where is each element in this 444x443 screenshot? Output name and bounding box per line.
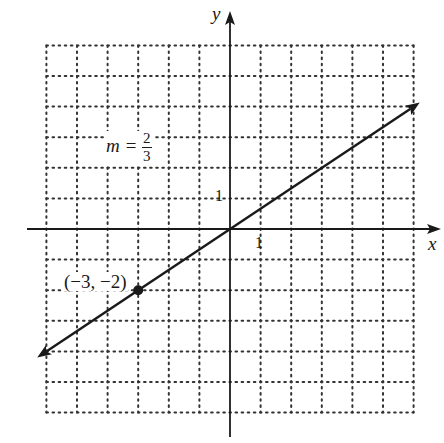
line-arrow-lower-left-icon xyxy=(37,345,52,357)
slope-numerator: 2 xyxy=(142,131,152,148)
slope-annotation: m = 23 xyxy=(104,131,154,164)
point-label: (−3, −2) xyxy=(63,272,128,291)
line-arrow-upper-right-icon xyxy=(405,103,420,115)
y-tick-label-1: 1 xyxy=(215,188,223,204)
y-axis-label: y xyxy=(212,4,220,23)
plotted-points xyxy=(133,285,143,295)
x-axis-label: x xyxy=(428,234,436,253)
slope-prefix: m = xyxy=(106,135,142,156)
x-tick-label-1: 1 xyxy=(255,235,263,251)
axes xyxy=(27,11,441,437)
slope-fraction: 23 xyxy=(142,131,152,164)
plotted-line xyxy=(37,103,420,358)
coordinate-plane xyxy=(0,0,444,443)
slope-line xyxy=(46,109,410,352)
point-marker xyxy=(133,285,143,295)
slope-denominator: 3 xyxy=(142,148,152,164)
